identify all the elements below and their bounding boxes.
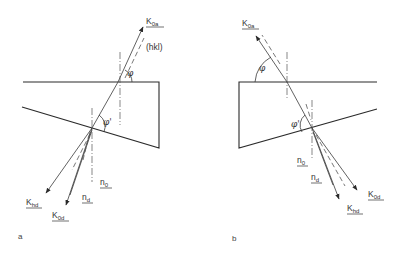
k0d-arrow-a: [66, 128, 92, 205]
wedge-a-outline: [22, 82, 159, 148]
label-k0d-b: K0d: [368, 189, 384, 200]
label-nd-a: nd: [82, 192, 93, 203]
label-phi-a: φ: [127, 68, 134, 78]
label-khd-b: Khd: [347, 203, 363, 214]
label-k0a-a: K0a: [146, 16, 164, 27]
label-phi-prime-a: φ': [103, 117, 112, 127]
wedge-b-outline: [239, 82, 377, 148]
svg-text:K0a: K0a: [242, 18, 255, 29]
label-khd-a: Khd: [26, 197, 42, 208]
panel-label-b: b: [232, 234, 237, 243]
panel-label-a: a: [18, 232, 23, 241]
label-k0a-b: K0a: [242, 18, 259, 29]
label-nd-b: nd: [311, 172, 322, 183]
svg-text:K0d: K0d: [368, 189, 380, 200]
panel-b: K0a φ φ' n0 nd K0d Khd b: [232, 18, 384, 243]
label-phi-b: φ: [259, 63, 266, 73]
svg-text:nd: nd: [82, 192, 90, 203]
khd-arrow-b: [312, 128, 339, 199]
svg-text:nd: nd: [311, 172, 319, 183]
svg-text:K0d: K0d: [52, 210, 64, 221]
svg-text:Khd: Khd: [26, 197, 38, 208]
refraction-diagram: K0a (hkl) φ φ' n0 nd Khd K0d a: [0, 0, 403, 258]
svg-text:K0a: K0a: [146, 16, 159, 27]
label-phi-prime-b: φ': [291, 119, 300, 129]
nd-line-a: [70, 130, 92, 195]
label-k0d-a: K0d: [52, 210, 69, 221]
label-n0-a: n0: [100, 177, 112, 188]
khd-arrow-a: [46, 128, 92, 193]
k0a-arrow-b: [256, 36, 287, 82]
svg-text:Khd: Khd: [347, 203, 359, 214]
svg-text:n0: n0: [100, 177, 109, 188]
svg-text:n0: n0: [297, 155, 306, 166]
label-n0-b: n0: [297, 155, 308, 166]
panel-a: K0a (hkl) φ φ' n0 nd Khd K0d a: [18, 16, 164, 241]
label-hkl: (hkl): [146, 42, 163, 52]
